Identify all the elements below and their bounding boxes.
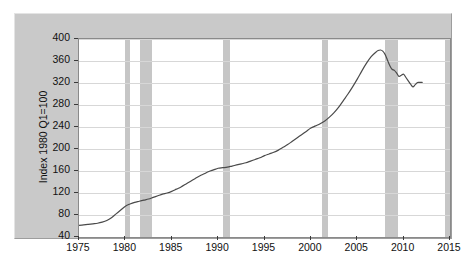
- y-tick-label: 400: [30, 32, 70, 42]
- y-tick-label: 40: [30, 230, 70, 240]
- x-tick-label: 2005: [336, 242, 376, 253]
- x-tick-mark: [124, 236, 125, 240]
- x-tick-mark: [171, 236, 172, 240]
- x-tick-mark: [78, 236, 79, 240]
- y-tick-label: 280: [30, 98, 70, 108]
- series-line-chart: [79, 39, 450, 237]
- y-tick-label: 160: [30, 164, 70, 174]
- x-tick-label: 1995: [244, 242, 284, 253]
- y-tick-label: 240: [30, 120, 70, 130]
- y-tick-label: 80: [30, 208, 70, 218]
- y-axis-label-container: Index 1980 Q1=100: [35, 38, 51, 236]
- chart-frame: Index 1980 Q1=100 4080120160200240280320…: [14, 13, 452, 239]
- x-tick-mark: [264, 236, 265, 240]
- series-path-index: [79, 50, 422, 225]
- x-tick-mark: [217, 236, 218, 240]
- x-tick-mark: [356, 236, 357, 240]
- x-tick-label: 2010: [383, 242, 423, 253]
- chart-figure: Index 1980 Q1=100 4080120160200240280320…: [0, 0, 466, 257]
- y-tick-label: 320: [30, 76, 70, 86]
- y-tick-label: 360: [30, 54, 70, 64]
- x-tick-mark: [310, 236, 311, 240]
- x-tick-mark: [403, 236, 404, 240]
- x-tick-label: 1990: [197, 242, 237, 253]
- x-tick-label: 2015: [429, 242, 466, 253]
- x-tick-label: 1985: [151, 242, 191, 253]
- x-tick-mark: [449, 236, 450, 240]
- plot-area: [78, 38, 451, 238]
- x-tick-label: 1975: [58, 242, 98, 253]
- x-tick-label: 2000: [290, 242, 330, 253]
- y-tick-label: 200: [30, 142, 70, 152]
- x-tick-label: 1980: [104, 242, 144, 253]
- y-tick-label: 120: [30, 186, 70, 196]
